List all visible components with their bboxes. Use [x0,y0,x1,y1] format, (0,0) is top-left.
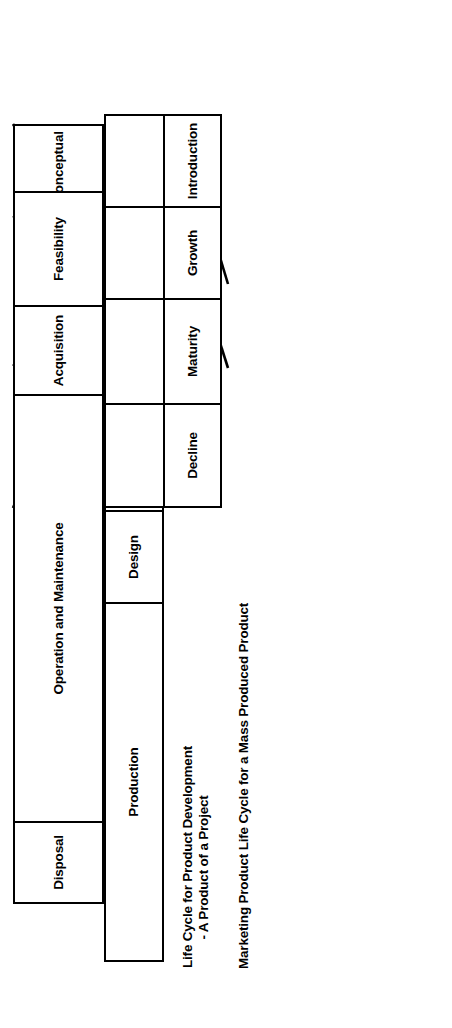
caption-marketing-product-life-cycle: Marketing Product Life Cycle for a Mass … [236,603,252,969]
phase-cell-maturity[interactable]: Maturity [165,298,220,403]
phase-cell-feasibility[interactable]: Feasibility [15,193,102,305]
phase-cell-growth[interactable]: Growth [165,206,220,298]
phase-label-production: Production [127,747,141,816]
phase-cell-acquisition[interactable]: Acquisition [15,305,102,394]
marketing-rail-seg-4 [106,116,163,206]
phase-cell-disposal[interactable]: Disposal [15,821,102,902]
phase-label-growth: Growth [186,230,200,276]
marketing-rail-seg-1 [106,403,163,506]
diagram-rotated-group: Conceptual Implementation Termination Im… [0,0,452,1028]
phase-label-maturity: Maturity [186,326,200,377]
phase-cell-production[interactable]: Production [106,602,162,960]
phase-cell-introduction[interactable]: Introduction [165,116,220,206]
marketing-rail-seg-3 [106,206,163,298]
phase-label-operation-and-maintenance: Operation and Maintenance [52,522,66,694]
phase-label-disposal: Disposal [52,835,66,890]
phase-label-decline: Decline [186,432,200,479]
phase-cell-design[interactable]: Design [106,510,162,602]
phase-label-introduction: Introduction [186,123,200,199]
band-marketing-product-life-cycle: Decline Maturity Growth Introduction [163,114,222,508]
phase-label-feasibility: Feasibility [52,217,66,281]
diagram-canvas: Conceptual Implementation Termination Im… [0,0,452,1028]
caption-product-development-life-cycle: Life Cycle for Product Development - A P… [180,746,212,968]
phase-label-acquisition: Acquisition [52,315,66,386]
marketing-rail-seg-2 [106,298,163,403]
phase-label-design: Design [127,535,141,579]
band-marketing-upper-rail [104,114,163,508]
band-capital-facility-life-cycle: Disposal Operation and Maintenance Acqui… [13,191,104,904]
phase-cell-decline[interactable]: Decline [165,403,220,506]
phase-cell-operation-and-maintenance[interactable]: Operation and Maintenance [15,394,102,821]
